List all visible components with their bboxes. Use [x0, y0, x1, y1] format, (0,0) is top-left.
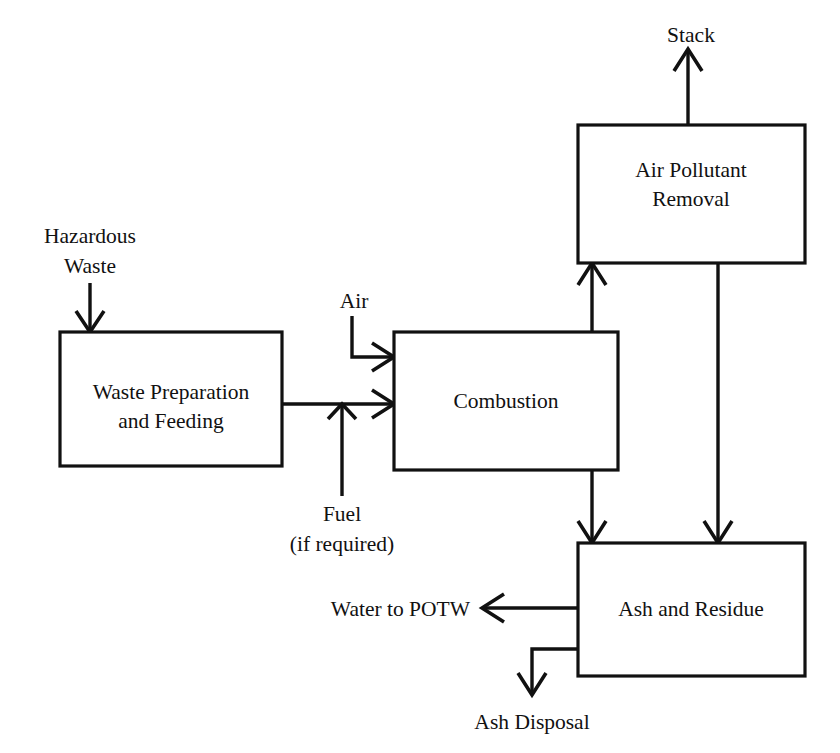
- node-air-pollutant-removal-label-line2: Removal: [652, 187, 730, 211]
- edge-ash-and-residue-to-water-to-potw: [482, 594, 578, 622]
- node-air-pollutant-removal-label-line1: Air Pollutant: [635, 158, 747, 182]
- edge-waste-preparation-to-combustion: [282, 390, 394, 418]
- node-combustion-label: Combustion: [453, 389, 558, 413]
- node-ash-and-residue-label: Ash and Residue: [618, 597, 764, 621]
- label-water-to-potw: Water to POTW: [331, 597, 471, 621]
- edge-hazardous-waste-to-waste-preparation: [76, 283, 104, 332]
- label-hazardous-waste-line2: Waste: [64, 254, 116, 278]
- label-ash-disposal: Ash Disposal: [474, 710, 589, 734]
- flow-diagram-canvas: Waste Preparation and Feeding Combustion…: [0, 0, 840, 753]
- edge-fuel-to-combustion: [328, 404, 356, 496]
- process-flow-diagram: Waste Preparation and Feeding Combustion…: [0, 0, 840, 753]
- node-waste-preparation-label-line1: Waste Preparation: [93, 380, 250, 404]
- node-ash-and-residue[interactable]: Ash and Residue: [578, 543, 805, 676]
- node-waste-preparation-label-line2: and Feeding: [118, 409, 224, 433]
- label-hazardous-waste-line1: Hazardous: [44, 224, 136, 248]
- node-combustion[interactable]: Combustion: [394, 332, 618, 470]
- edge-air-to-combustion: [352, 316, 394, 371]
- node-air-pollutant-removal[interactable]: Air Pollutant Removal: [578, 125, 805, 263]
- edge-air-pollutant-removal-to-stack: [674, 49, 702, 125]
- edge-combustion-to-ash-and-residue: [578, 470, 606, 543]
- label-fuel-line2: (if required): [290, 532, 394, 556]
- label-air: Air: [340, 289, 369, 313]
- edge-air-pollutant-removal-to-ash-and-residue: [704, 263, 732, 543]
- edge-ash-and-residue-to-ash-disposal: [518, 649, 578, 695]
- node-waste-preparation-and-feeding[interactable]: Waste Preparation and Feeding: [60, 332, 282, 466]
- edge-combustion-to-air-pollutant-removal: [578, 263, 606, 332]
- label-stack: Stack: [667, 23, 715, 47]
- label-fuel-line1: Fuel: [323, 502, 361, 526]
